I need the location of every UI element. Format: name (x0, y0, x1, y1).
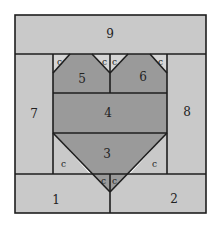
label-c-2: c (102, 57, 107, 67)
label-c-4: c (158, 57, 163, 67)
label-c-8: c (112, 176, 117, 186)
label-c-1: c (57, 57, 62, 67)
label-7: 7 (30, 107, 38, 121)
label-c-5: c (61, 159, 66, 169)
label-4: 4 (104, 106, 112, 120)
label-6: 6 (139, 70, 147, 84)
label-5: 5 (78, 72, 86, 86)
label-3: 3 (103, 147, 111, 161)
piece-1 (15, 174, 110, 213)
label-8: 8 (183, 105, 191, 119)
heart-block-diagram: 9 5 6 7 4 8 3 1 2 c c c c c c c c (0, 0, 218, 231)
label-c-3: c (112, 57, 117, 67)
label-2: 2 (170, 192, 178, 206)
label-c-6: c (152, 159, 157, 169)
piece-2 (110, 174, 206, 213)
label-9: 9 (106, 27, 114, 41)
label-1: 1 (52, 193, 60, 207)
label-c-7: c (101, 176, 106, 186)
